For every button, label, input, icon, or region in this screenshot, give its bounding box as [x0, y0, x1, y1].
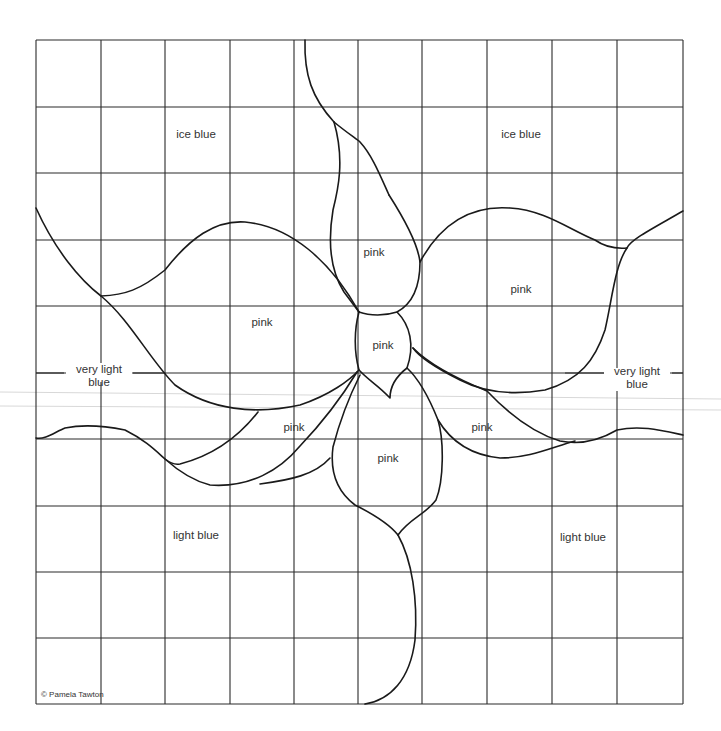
label-line: blue: [66, 376, 132, 389]
label-very-light-blue-right: very light blue: [604, 365, 670, 391]
label-pink-center: pink: [372, 339, 393, 352]
lower-right-petal: [413, 348, 683, 442]
label-pink-bottom: pink: [377, 452, 398, 465]
label-light-blue-left: light blue: [173, 529, 219, 542]
upper-right-petal: [420, 208, 627, 262]
label-pink-lower-left: pink: [283, 421, 304, 434]
label-light-blue-right: light blue: [560, 531, 606, 544]
label-pink-upper-left: pink: [251, 316, 272, 329]
label-line: blue: [604, 378, 670, 391]
label-line: very light: [604, 365, 670, 378]
bottom-stem: [365, 535, 416, 704]
label-pink-top: pink: [363, 246, 384, 259]
label-pink-upper-right: pink: [510, 283, 531, 296]
top-stem: [305, 40, 334, 122]
label-very-light-blue-left: very light blue: [66, 363, 132, 389]
label-ice-blue-right: ice blue: [501, 128, 541, 141]
label-line: very light: [66, 363, 132, 376]
flower-outlines: [36, 40, 683, 704]
scan-artifact-lines: [0, 392, 721, 410]
label-ice-blue-left: ice blue: [176, 128, 216, 141]
center-petal: [355, 312, 411, 398]
upper-left-petal: [36, 208, 359, 312]
label-pink-lower-right: pink: [471, 421, 492, 434]
grid-lines: [36, 40, 683, 704]
copyright-notice: © Pamela Tawton: [41, 690, 104, 699]
top-petal: [331, 122, 359, 312]
